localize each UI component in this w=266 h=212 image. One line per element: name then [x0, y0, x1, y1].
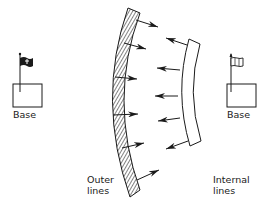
internal-arrow-1 — [166, 38, 187, 45]
internal-lines-label-line2: lines — [213, 185, 250, 196]
left-base-box — [13, 84, 42, 107]
left-base — [13, 53, 42, 107]
outer-lines-label-line1: Outer — [87, 174, 114, 185]
internal-arrow-2 — [157, 68, 180, 70]
right-flagpole-tip — [230, 53, 233, 57]
outer-lines-arc — [112, 8, 140, 197]
right-base — [227, 53, 256, 107]
outer-arrow-1 — [136, 20, 158, 27]
outer-arrow-6 — [137, 170, 159, 180]
outer-lines-label: Outer lines — [87, 174, 114, 196]
right-base-label: Base — [227, 109, 250, 120]
internal-lines-label: Internal lines — [213, 174, 250, 196]
internal-arrow-4 — [158, 118, 180, 121]
white-flag-icon — [231, 58, 243, 67]
internal-lines-label-line1: Internal — [213, 174, 250, 185]
internal-arrow-5 — [166, 141, 188, 149]
internal-lines-arc — [182, 39, 201, 146]
outer-lines-label-line2: lines — [87, 185, 114, 196]
left-flagpole-tip — [19, 53, 21, 55]
left-base-label: Base — [13, 109, 36, 120]
